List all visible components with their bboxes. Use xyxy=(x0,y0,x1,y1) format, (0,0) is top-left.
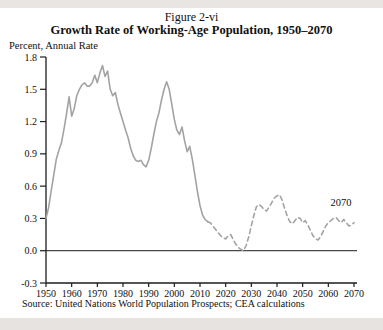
x-tick-label: 2070 xyxy=(344,288,364,299)
y-tick-label: -0.3 xyxy=(21,278,37,289)
y-tick-label: 0.6 xyxy=(25,181,38,192)
y-tick-label: 1.5 xyxy=(25,84,38,95)
series-line-historical xyxy=(46,66,208,222)
y-tick-label: 1.8 xyxy=(25,52,38,63)
y-tick-label: 0.0 xyxy=(25,245,38,256)
y-tick-label: 1.2 xyxy=(25,116,38,127)
y-tick-label: 0.3 xyxy=(25,213,38,224)
endpoint-year-annotation: 2070 xyxy=(330,197,351,208)
growth-rate-line-chart: -0.30.00.30.60.91.21.51.8195019601970198… xyxy=(0,0,383,330)
y-tick-label: 0.9 xyxy=(25,148,38,159)
source-note: Source: United Nations World Population … xyxy=(22,298,305,309)
x-tick-label: 2060 xyxy=(318,288,338,299)
